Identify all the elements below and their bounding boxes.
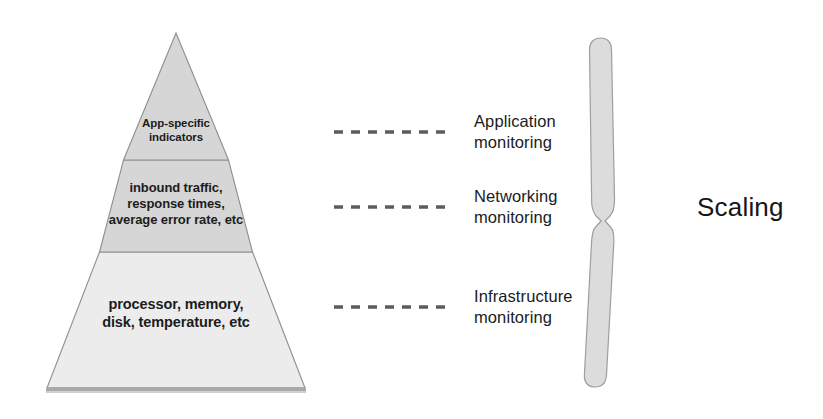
connector-row-infrastructure: Infrastructure monitoring: [332, 286, 573, 328]
curly-brace: [580, 30, 640, 395]
connector-label-application: Application monitoring: [474, 111, 556, 153]
connector-row-application: Application monitoring: [332, 111, 556, 153]
dashed-connector-line-infrastructure: [332, 289, 452, 325]
pyramid-tier-base-label: processor, memory, disk, temperature, et…: [56, 296, 296, 331]
pyramid-base-shadow: [46, 387, 306, 392]
diagram-canvas: App-specific indicators inbound traffic,…: [0, 0, 823, 419]
dashed-connector-line-application: [332, 114, 452, 150]
pyramid-tier-top-label: App-specific indicators: [106, 117, 246, 144]
monitoring-pyramid: App-specific indicators inbound traffic,…: [0, 0, 360, 419]
scaling-label: Scaling: [697, 192, 784, 223]
pyramid-tier-middle-label: inbound traffic, response times, average…: [66, 180, 286, 228]
pyramid-base-shadow-soft: [46, 391, 306, 393]
connector-row-networking: Networking monitoring: [332, 186, 558, 228]
connector-label-networking: Networking monitoring: [474, 186, 558, 228]
connector-label-infrastructure: Infrastructure monitoring: [474, 286, 573, 328]
curly-brace-shape: [580, 30, 640, 395]
dashed-connector-line-networking: [332, 189, 452, 225]
